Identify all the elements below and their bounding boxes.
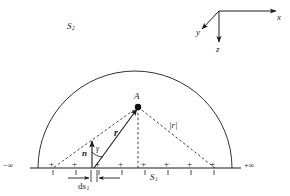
- plus-mark: +: [210, 160, 215, 169]
- ds-element-label: ds1: [78, 182, 89, 192]
- vector-n-label: n: [82, 149, 87, 158]
- axis-y-label: y: [196, 28, 200, 37]
- point-a-label: A: [134, 92, 140, 101]
- vector-r-magnitude-label: |r|: [169, 121, 177, 130]
- figure-canvas: + + + + + + + + x y z S2 S1 −∞ +∞ A n r …: [0, 0, 290, 196]
- surface-s1-label: S1: [150, 173, 158, 183]
- plus-mark: +: [95, 160, 100, 169]
- limit-plus-infinity: +∞: [244, 162, 254, 170]
- angle-gamma-label: γ: [96, 145, 99, 153]
- plus-mark: +: [118, 160, 123, 169]
- axes-group: [202, 11, 276, 42]
- limit-minus-infinity: −∞: [3, 162, 13, 170]
- plus-mark: +: [141, 160, 146, 169]
- axis-x-label: x: [277, 13, 281, 22]
- point-a-dot: [135, 104, 141, 110]
- plus-mark: +: [164, 160, 169, 169]
- vector-r-label: r: [114, 128, 118, 138]
- plus-mark: +: [49, 160, 54, 169]
- baseline-tick-group: [53, 170, 214, 175]
- surface-s2-label: S2: [67, 22, 75, 32]
- vector-r-arrow: [94, 109, 137, 168]
- plus-mark: +: [72, 160, 77, 169]
- axis-y: [202, 11, 219, 29]
- plus-mark: +: [187, 160, 192, 169]
- hemisphere-arc-s2: [38, 71, 232, 168]
- axis-z-label: z: [216, 45, 220, 54]
- dashed-ray-right: [138, 107, 215, 168]
